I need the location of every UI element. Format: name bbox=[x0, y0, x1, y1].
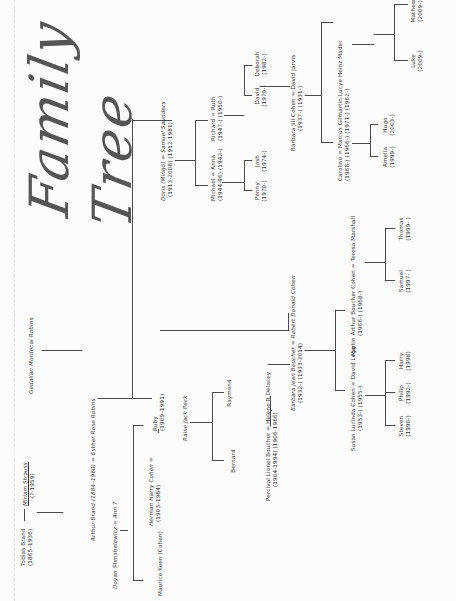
descent-line bbox=[212, 460, 224, 461]
descent-line bbox=[394, 60, 408, 61]
descent-line bbox=[222, 182, 244, 183]
sibling-line bbox=[335, 311, 336, 391]
descent-line bbox=[321, 142, 333, 143]
descent-line bbox=[385, 280, 395, 281]
descent-line bbox=[305, 350, 335, 351]
descent-line bbox=[365, 262, 385, 263]
descent-line bbox=[321, 22, 333, 23]
person-gedalian: Gedalian Mordecai Robins bbox=[28, 318, 35, 394]
sibling-line bbox=[244, 161, 245, 191]
sibling-line bbox=[385, 229, 386, 281]
descent-line bbox=[37, 512, 63, 513]
person-tobias: Tobias Brand (1865–1936) bbox=[20, 528, 34, 566]
descent-line bbox=[268, 364, 290, 365]
person-harry: Harry (1998) bbox=[398, 351, 412, 371]
person-deborah: Deborah (1982-) bbox=[254, 51, 268, 76]
person-doris: Doris (Mingo) = Samuel Saunders (1913-20… bbox=[160, 102, 174, 201]
person-susan: Susan Lucinda Cohen = David Legg (1953-)… bbox=[350, 346, 364, 451]
descent-line bbox=[374, 34, 394, 35]
descent-line bbox=[370, 156, 378, 157]
descent-line bbox=[385, 360, 395, 361]
person-bernard: Bernard bbox=[230, 449, 237, 472]
descent-line bbox=[42, 350, 82, 351]
descent-line bbox=[224, 115, 244, 116]
person-miriam: Miriam Strauss (?-1959) bbox=[22, 462, 36, 506]
sibling-line bbox=[212, 393, 213, 461]
family-tree-canvas: Family Tree Tobias Brand (1865–1936) Mir… bbox=[0, 0, 456, 601]
person-barbara-joan: Barbara Joan Boucher = Robert Donald Coh… bbox=[290, 275, 304, 411]
person-caroline: Caroline = Marcus Gilmartin Lucye Heinz … bbox=[337, 40, 351, 181]
descent-line bbox=[190, 422, 212, 423]
person-raise: Raise Jack Peck bbox=[182, 395, 189, 441]
descent-line bbox=[120, 530, 128, 531]
descent-line bbox=[175, 160, 195, 161]
person-thomas: Thomas (1999- ) bbox=[398, 217, 412, 241]
descent-line bbox=[305, 95, 321, 96]
person-raymond: Raymond bbox=[226, 379, 233, 407]
person-barbara-jill: Barbara Jill Cohen = David Jarvis (1937-… bbox=[290, 55, 304, 151]
descent-line bbox=[98, 398, 152, 399]
descent-line bbox=[160, 330, 288, 331]
sibling-line bbox=[370, 125, 371, 157]
descent-line bbox=[244, 190, 252, 191]
descent-line bbox=[244, 95, 252, 96]
descent-line bbox=[394, 4, 408, 5]
descent-line bbox=[244, 65, 252, 66]
person-martin: Martin Arthur Boucher Cohen = Teresa Mar… bbox=[350, 216, 364, 356]
sibling-line bbox=[321, 23, 322, 143]
descent-line bbox=[260, 86, 290, 87]
person-hugo: Hugo (2003-) bbox=[382, 114, 396, 136]
sibling-line bbox=[195, 121, 196, 186]
descent-line bbox=[385, 425, 395, 426]
person-herman: Herman Harry Cohen = (1903–1984) bbox=[148, 457, 162, 526]
person-maurice: Maurice Keen (Cohen) bbox=[157, 531, 164, 596]
descent-line bbox=[195, 120, 208, 121]
person-ruby: Ruby (1909–1991) bbox=[152, 394, 166, 431]
sibling-line bbox=[394, 5, 395, 61]
descent-line bbox=[195, 185, 208, 186]
sibling-line bbox=[385, 361, 386, 426]
person-david: David (1979-) bbox=[254, 85, 268, 107]
descent-line bbox=[244, 160, 252, 161]
person-josh: Josh (1974-) bbox=[254, 150, 268, 172]
sibling-line bbox=[132, 119, 133, 399]
descent-line bbox=[335, 390, 345, 391]
person-arthur: Arthur Brand (1884–1960) = Esther Rose R… bbox=[90, 398, 97, 541]
person-philip: Philip (1992-) bbox=[398, 382, 412, 404]
handwritten-title: Family Tree bbox=[18, 0, 144, 232]
person-mathew: Mathew (2009-) bbox=[410, 0, 424, 22]
scanned-page: Family Tree Tobias Brand (1865–1936) Mir… bbox=[0, 0, 456, 601]
sibling-line bbox=[133, 426, 134, 581]
descent-line bbox=[133, 580, 143, 581]
person-penny: Penny (1970-) bbox=[254, 180, 268, 202]
marriage-line bbox=[158, 429, 159, 433]
person-richard: Richard = Ruth (1947-) (1950-) bbox=[210, 96, 224, 141]
descent-line bbox=[133, 425, 143, 426]
person-amelia: Amelia (1999-) bbox=[382, 146, 396, 168]
person-percival: Percival Lionel Boucher = Helene R Delac… bbox=[265, 372, 279, 501]
descent-line bbox=[352, 44, 374, 45]
descent-line bbox=[385, 228, 395, 229]
person-samuel: Samuel (1997- ) bbox=[398, 269, 412, 293]
sibling-line bbox=[244, 66, 245, 96]
descent-line bbox=[335, 310, 345, 311]
marriage-line bbox=[288, 313, 289, 331]
descent-line bbox=[352, 143, 370, 144]
person-steven: Steven (1990-) bbox=[398, 415, 412, 437]
marriage-line bbox=[24, 509, 25, 521]
descent-line bbox=[270, 396, 271, 426]
person-michael: Michael = Anna (1944-96) (1942-) bbox=[210, 148, 224, 201]
person-doyan: Doyan Shmshelewicz = Ann ? bbox=[112, 502, 119, 589]
descent-line bbox=[385, 392, 395, 393]
descent-line bbox=[212, 392, 224, 393]
descent-line bbox=[365, 395, 385, 396]
person-luke: Luke (2009-) bbox=[410, 50, 424, 72]
descent-line bbox=[370, 124, 378, 125]
